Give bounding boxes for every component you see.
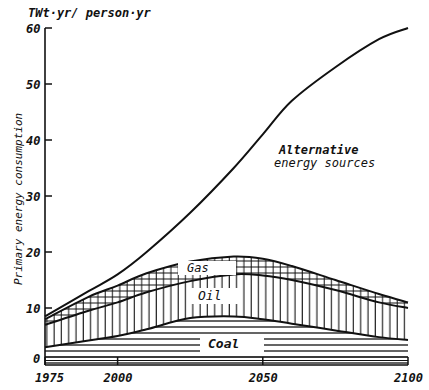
coal-label: Coal bbox=[208, 336, 239, 351]
y-tick-label: 0 bbox=[33, 352, 40, 366]
unit-label: TWt·yr/ person·yr bbox=[28, 6, 152, 20]
y-tick-label: 20 bbox=[25, 246, 40, 260]
y-tick-label: 30 bbox=[25, 190, 40, 204]
y-tick-label: 50 bbox=[26, 78, 40, 92]
alternative-label-line1: Alternative bbox=[278, 143, 358, 157]
x-tick-label: 2100 bbox=[393, 371, 423, 385]
x-tick-label: 1975 bbox=[35, 371, 64, 385]
gas-label: Gas bbox=[187, 261, 209, 275]
oil-label: Oil bbox=[198, 288, 221, 303]
y-axis-title: Primary energy consumption bbox=[12, 113, 25, 285]
alternative-label-line2: energy sources bbox=[274, 156, 375, 170]
y-tick-label: 10 bbox=[26, 302, 40, 316]
y-tick-label: 40 bbox=[26, 134, 40, 148]
x-tick-label: 2000 bbox=[103, 371, 133, 385]
energy-chart: 0102030405060 1975200020502100 TWt·yr/ p… bbox=[0, 0, 429, 390]
y-tick-label: 60 bbox=[26, 22, 40, 36]
x-tick-label: 2050 bbox=[248, 371, 278, 385]
